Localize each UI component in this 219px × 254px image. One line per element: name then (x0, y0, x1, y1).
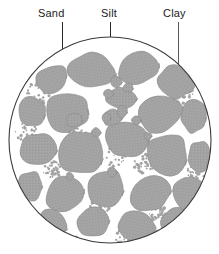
clay-particle (49, 176, 51, 178)
clay-particle (139, 170, 141, 172)
clay-particle (72, 237, 74, 239)
clay-particle (63, 239, 65, 241)
clay-particle (108, 151, 111, 154)
clay-particle (144, 165, 146, 167)
clay-particle (141, 157, 144, 160)
clay-particle (15, 131, 16, 132)
clay-particle (30, 83, 33, 86)
clay-particle (149, 213, 151, 215)
clay-particle (42, 96, 45, 99)
clay-particle (187, 168, 189, 170)
clay-particle (141, 155, 144, 158)
clay-particle (108, 163, 111, 166)
clay-particle (23, 131, 25, 133)
soil-diagram-svg (8, 36, 212, 244)
clay-particle (184, 95, 186, 97)
clay-particle (52, 176, 54, 178)
clay-particle (110, 161, 113, 164)
clay-particle (66, 236, 69, 239)
clay-particle (126, 242, 128, 244)
clay-particle (188, 174, 190, 176)
soil-texture-figure: Sand Silt Clay (0, 0, 219, 254)
label-silt: Silt (101, 7, 117, 19)
clay-particle (27, 89, 29, 91)
clay-particle (133, 166, 136, 169)
clay-particle (144, 153, 147, 156)
clay-particle (20, 138, 22, 140)
clay-particle (20, 134, 22, 136)
clay-particle (124, 243, 126, 244)
label-clay: Clay (163, 7, 186, 19)
clay-particle (76, 243, 79, 244)
clay-particle (134, 161, 136, 163)
clay-particle (122, 160, 124, 162)
clay-particle (35, 128, 37, 130)
clay-particle (163, 207, 165, 209)
clay-particle (189, 171, 192, 174)
clay-particle (141, 172, 144, 175)
clay-particle (47, 94, 50, 97)
clay-particle (73, 237, 76, 240)
clay-particle (118, 159, 120, 161)
clay-particle (23, 125, 25, 127)
clay-particle (51, 169, 54, 172)
clay-particle (49, 164, 51, 166)
clay-particle (48, 168, 51, 171)
clay-particle (64, 239, 66, 241)
clay-particle (145, 157, 147, 159)
clay-particle (113, 155, 114, 156)
clay-particle (80, 129, 82, 131)
clay-particle (17, 136, 20, 139)
clay-particle (26, 130, 28, 132)
clay-particle (49, 171, 51, 173)
clay-particle (56, 162, 58, 164)
clay-particle (64, 243, 67, 244)
clay-particle (66, 243, 69, 244)
clay-particle (120, 243, 122, 244)
clay-particle (77, 128, 79, 130)
clay-particle (157, 213, 160, 216)
clay-particle (154, 219, 156, 221)
clay-particle (64, 239, 67, 242)
clay-particle (72, 239, 74, 241)
clay-particle (135, 163, 138, 166)
clay-particle (197, 173, 200, 176)
clay-particle (188, 94, 190, 96)
clay-particle (190, 174, 192, 176)
clay-particle (151, 216, 154, 219)
clay-particle (46, 171, 49, 174)
clay-particle (117, 163, 120, 166)
clay-particle (192, 172, 194, 174)
clay-particle (66, 242, 68, 244)
clay-particle (30, 129, 32, 131)
clay-particle (115, 159, 117, 161)
clay-particle (76, 242, 78, 244)
clay-particle (121, 161, 122, 162)
clay-particle (115, 239, 117, 241)
clay-particle (146, 164, 149, 167)
clay-particle (26, 92, 29, 95)
clay-particle (53, 167, 55, 169)
clay-particle (195, 175, 197, 177)
clay-particle (33, 129, 35, 131)
clay-particle (38, 94, 41, 97)
clay-particle (57, 173, 60, 176)
clay-particle (106, 157, 108, 159)
clay-particle (43, 172, 44, 173)
clay-particle (106, 209, 108, 211)
clay-particle (65, 238, 68, 241)
clay-particle (137, 166, 140, 169)
clay-particle (119, 236, 121, 238)
clay-particle (44, 165, 46, 167)
clay-particle (75, 243, 78, 244)
clay-particle (183, 102, 185, 104)
clay-particle (71, 238, 73, 240)
clay-particle (140, 162, 143, 165)
clay-particle (192, 93, 194, 95)
clay-particle (146, 168, 148, 170)
clay-particle (123, 239, 125, 241)
label-sand: Sand (38, 7, 65, 19)
clay-particle (149, 168, 151, 170)
silt-particle (123, 83, 133, 92)
clay-particle (159, 211, 161, 213)
